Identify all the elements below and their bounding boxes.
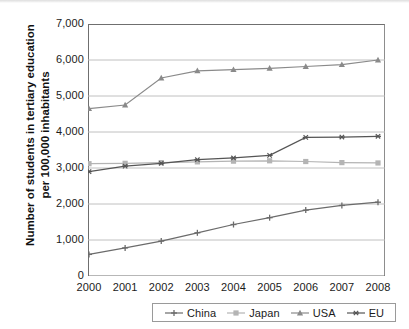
x-axis-tick-labels: 200020012002200320042005200620072008 [88, 281, 385, 297]
x-tick-label: 2000 [69, 281, 109, 293]
legend-marker-star-icon [346, 307, 366, 319]
plot-canvas [88, 24, 385, 276]
y-tick-label: 0 [40, 269, 84, 281]
x-tick-label: 2002 [141, 281, 181, 293]
data-point-square-marker [339, 160, 344, 165]
series-china [88, 199, 381, 257]
x-tick-label: 2007 [322, 281, 362, 293]
data-point-cross-marker [194, 230, 200, 236]
legend-item-eu[interactable]: EU [346, 307, 384, 319]
data-point-cross-marker [339, 202, 345, 208]
y-tick-label: 2,000 [40, 197, 84, 209]
legend-label: USA [313, 307, 336, 319]
data-point-cross-marker [303, 207, 309, 213]
y-tick-label: 3,000 [40, 161, 84, 173]
legend-marker-square-icon [226, 307, 246, 319]
series-usa [88, 57, 381, 111]
data-point-cross-marker [158, 238, 164, 244]
data-point-square-marker [375, 160, 380, 165]
y-tick-label: 1,000 [40, 233, 84, 245]
data-series-group [88, 57, 381, 258]
data-point-square-marker [267, 158, 272, 163]
y-tick-label: 5,000 [40, 89, 84, 101]
data-point-star-marker [339, 135, 345, 139]
y-axis-tick-labels: 01,0002,0003,0004,0005,0006,0007,000 [36, 0, 84, 329]
data-point-star-marker [375, 134, 381, 138]
chart-figure: Number of students in tertiary education… [0, 0, 409, 329]
legend-item-japan[interactable]: Japan [226, 307, 279, 319]
legend-label: China [187, 307, 216, 319]
chart-legend: ChinaJapanUSAEU [152, 303, 396, 322]
series-line [89, 136, 378, 171]
y-tick-label: 6,000 [40, 53, 84, 65]
legend-label: EU [369, 307, 384, 319]
legend-marker-triangle-icon [290, 307, 310, 319]
data-point-cross-marker [171, 310, 177, 316]
legend-item-usa[interactable]: USA [290, 307, 336, 319]
data-point-star-marker [267, 153, 273, 157]
data-point-cross-marker [231, 222, 237, 228]
x-tick-label: 2006 [286, 281, 326, 293]
data-point-cross-marker [267, 215, 273, 221]
legend-label: Japan [249, 307, 279, 319]
y-tick-label: 7,000 [40, 17, 84, 29]
x-tick-label: 2005 [250, 281, 290, 293]
data-point-star-marker [303, 135, 309, 139]
x-tick-label: 2001 [105, 281, 145, 293]
legend-item-china[interactable]: China [164, 307, 216, 319]
x-tick-label: 2004 [214, 281, 254, 293]
legend-marker-cross-icon [164, 307, 184, 319]
data-point-cross-marker [88, 251, 92, 257]
x-tick-label: 2008 [358, 281, 398, 293]
data-point-square-marker [303, 159, 308, 164]
data-point-square-marker [234, 310, 239, 315]
y-tick-label: 4,000 [40, 125, 84, 137]
data-point-star-marker [353, 310, 359, 314]
data-point-cross-marker [122, 245, 128, 251]
series-line [89, 202, 378, 254]
gridlines [88, 60, 385, 276]
data-point-star-marker [88, 169, 92, 173]
x-tick-label: 2003 [177, 281, 217, 293]
data-point-square-marker [88, 161, 92, 166]
